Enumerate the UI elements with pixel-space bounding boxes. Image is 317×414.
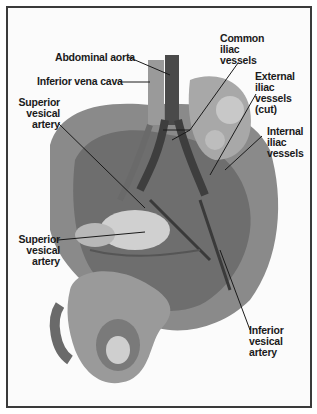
aorta-vessel (165, 55, 179, 125)
vena-cava-vessel (148, 60, 164, 125)
label-common-iliac-vessels: Common iliac vessels (220, 33, 264, 66)
label-abdominal-aorta: Abdominal aorta (55, 52, 135, 63)
label-line: vessels (220, 55, 264, 66)
label-line: vessels (267, 148, 304, 159)
label-line: artery (249, 347, 284, 358)
label-superior-vesical-artery-lower: Superior vesical artery (16, 234, 60, 267)
label-external-iliac-vessels: External iliac vessels (cut) (255, 71, 295, 115)
label-line: (cut) (255, 104, 295, 115)
label-line: artery (16, 119, 60, 130)
label-inferior-vena-cava: Inferior vena cava (37, 76, 123, 87)
label-superior-vesical-artery-upper: Superior vesical artery (16, 97, 60, 130)
label-inferior-vesical-artery: Inferior vesical artery (249, 325, 284, 358)
label-line: artery (16, 256, 60, 267)
label-internal-iliac-vessels: Internal iliac vessels (267, 126, 304, 159)
